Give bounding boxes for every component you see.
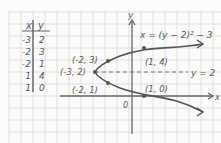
point	[106, 81, 110, 85]
table-cell-y: 0	[39, 83, 45, 93]
x-axis-label: x	[214, 93, 220, 102]
equation-label: x = (y − 2)² − 3	[139, 30, 213, 40]
graph-paper-figure: x y -3 2 -2 3 -2 1 1 4 1 0 x y 0 y = 2 x…	[0, 0, 221, 143]
point-label: (-2, 1)	[72, 85, 98, 95]
parabola-curve	[95, 44, 203, 112]
table-cell-x: 1	[25, 83, 31, 93]
table-cell-x: -2	[22, 59, 31, 69]
table-cell-y: 1	[39, 59, 45, 69]
table-cell-x: -3	[22, 35, 31, 45]
point	[142, 46, 146, 50]
point-label: (-3, 2)	[60, 67, 86, 77]
xy-table: x y -3 2 -2 3 -2 1 1 4 1 0	[22, 20, 50, 93]
point	[106, 59, 110, 63]
point-label: (-2, 3)	[72, 55, 98, 65]
point	[142, 94, 146, 98]
y-axis-label: y	[127, 10, 134, 20]
table-cell-y: 2	[39, 35, 45, 45]
table-header-y: y	[37, 20, 45, 31]
point-vertex	[93, 70, 97, 74]
table-cell-x: -2	[22, 47, 31, 57]
point-label: (1, 4)	[145, 57, 168, 67]
origin-label: 0	[123, 101, 128, 110]
lower-arrow-icon	[197, 108, 203, 116]
table-cell-y: 3	[39, 47, 45, 57]
table-cell-y: 4	[39, 71, 45, 81]
table-header-x: x	[25, 20, 32, 31]
axis-of-symmetry-label: y = 2	[190, 68, 216, 78]
point-label: (1, 0)	[145, 84, 168, 94]
table-cell-x: 1	[25, 71, 31, 81]
